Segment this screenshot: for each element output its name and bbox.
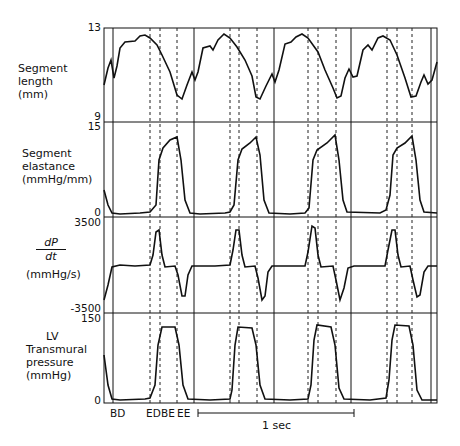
chart-plot — [0, 0, 460, 446]
event-markers — [150, 28, 412, 403]
time-scale-bar — [198, 409, 354, 417]
